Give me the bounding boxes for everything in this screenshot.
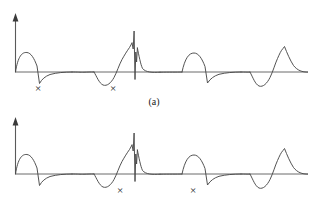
waveform-plot-b: [0, 104, 308, 194]
x-marker: ×: [190, 185, 196, 196]
axes-group-a: [13, 13, 308, 72]
waveform-plot-a: [0, 0, 308, 90]
x-marker: ×: [35, 83, 41, 94]
signal-trace-b: [16, 133, 309, 188]
panel-a: × × (a): [0, 0, 308, 108]
y-axis-arrowhead: [13, 117, 19, 126]
panel-b: × × (b): [0, 104, 308, 212]
y-axis-arrowhead: [13, 13, 19, 22]
axes-group-b: [13, 117, 308, 174]
x-marker: ×: [117, 185, 123, 196]
x-marker: ×: [110, 83, 116, 94]
signal-trace-a: [16, 31, 309, 86]
